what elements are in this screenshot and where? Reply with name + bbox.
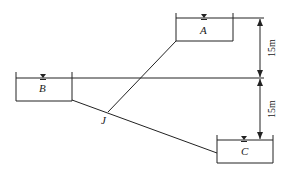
arrow-up-icon <box>257 79 263 86</box>
reservoir-a <box>176 13 264 41</box>
label-c: C <box>241 145 249 157</box>
arrow-up-icon <box>257 19 263 26</box>
label-junction: J <box>101 114 107 126</box>
label-b: B <box>39 82 46 94</box>
dimension-label-bc: 15m <box>266 100 277 118</box>
arrow-down-icon <box>257 70 263 77</box>
label-a: A <box>199 24 207 36</box>
reservoir-diagram: A B C J 15m 15m <box>0 0 287 180</box>
water-surface-icon <box>40 74 46 80</box>
reservoir-b <box>16 72 264 101</box>
pipe-a-j <box>108 41 176 112</box>
arrow-down-icon <box>257 132 263 139</box>
pipe-b-j-c <box>72 100 217 153</box>
dimension-label-ab: 15m <box>266 39 277 57</box>
water-surface-icon <box>201 14 207 20</box>
water-surface-icon <box>241 136 247 142</box>
